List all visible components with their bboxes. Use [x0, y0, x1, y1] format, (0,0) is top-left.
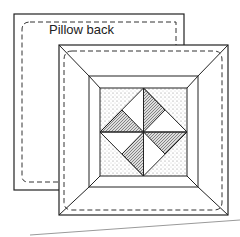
baseline — [30, 220, 240, 235]
pillow-back-label: Pillow back — [49, 22, 114, 37]
pillow-front — [59, 45, 228, 215]
pillow-diagram — [0, 0, 240, 237]
